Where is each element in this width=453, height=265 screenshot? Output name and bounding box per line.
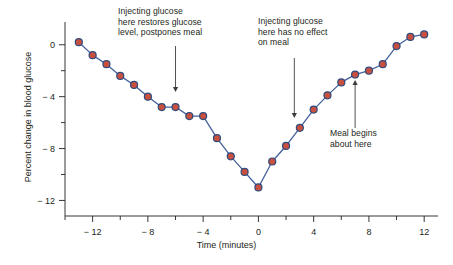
svg-text:− 4: − 4 — [42, 92, 55, 102]
svg-text:− 12: − 12 — [84, 227, 102, 237]
glucose-line-chart: 0− 4− 8− 12− 12− 8− 404812 Injecting glu… — [0, 0, 453, 265]
y-axis-label: Percent change in blood glucose — [23, 17, 33, 217]
x-axis-label: Time (minutes) — [0, 240, 453, 250]
axes — [59, 22, 438, 222]
svg-text:0: 0 — [50, 40, 55, 50]
svg-text:4: 4 — [311, 227, 316, 237]
svg-text:12: 12 — [419, 227, 429, 237]
svg-text:− 8: − 8 — [42, 144, 55, 154]
svg-text:8: 8 — [366, 227, 371, 237]
svg-text:− 4: − 4 — [197, 227, 210, 237]
annotation-meal-begins: Meal begins about here — [330, 128, 422, 149]
annotation-injection-restores: Injecting glucose here restores glucose … — [118, 6, 248, 38]
data-series — [75, 31, 427, 191]
svg-text:− 8: − 8 — [142, 227, 155, 237]
annotation-injection-no-effect: Injecting glucose here has no effect on … — [258, 16, 368, 48]
svg-text:− 12: − 12 — [37, 196, 55, 206]
svg-text:0: 0 — [256, 227, 261, 237]
